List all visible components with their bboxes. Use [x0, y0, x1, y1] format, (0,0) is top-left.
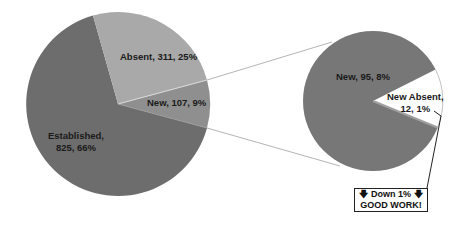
label-established-line2: 825, 66% — [48, 142, 104, 154]
label-absent: Absent, 311, 25% — [120, 51, 197, 63]
label-new-sub: New, 95, 8% — [336, 71, 390, 83]
label-new-absent-line1: New Absent, — [387, 91, 444, 103]
callout-line1: 🡇 Down 1% 🡇 — [355, 189, 427, 200]
down-arrow-icon: 🡇 — [414, 189, 423, 199]
label-new-absent: New Absent, 12, 1% — [387, 91, 444, 115]
down-arrow-icon: 🡇 — [359, 189, 368, 199]
callout-box: 🡇 Down 1% 🡇 GOOD WORK! — [354, 188, 428, 212]
callout-line1-text: Down 1% — [371, 189, 411, 199]
label-new-absent-line2: 12, 1% — [387, 103, 444, 115]
label-new-main: New, 107, 9% — [147, 97, 206, 109]
label-established: Established, 825, 66% — [48, 130, 104, 154]
callout-line2: GOOD WORK! — [355, 200, 427, 211]
label-established-line1: Established, — [48, 130, 104, 142]
